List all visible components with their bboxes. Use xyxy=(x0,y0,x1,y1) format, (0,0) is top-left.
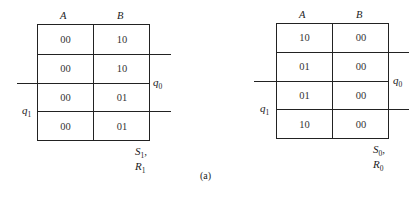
cell: 00 xyxy=(333,52,389,81)
cell: 00 xyxy=(37,54,94,83)
column-header-a: A xyxy=(299,9,305,20)
cell: 00 xyxy=(37,111,94,141)
cell: 10 xyxy=(94,24,150,54)
cell: 01 xyxy=(276,81,333,109)
row-variable-q0: q0 xyxy=(153,76,162,91)
output-label: S0, R0 xyxy=(373,143,385,173)
cell: 01 xyxy=(94,83,150,111)
cell: 00 xyxy=(333,109,389,139)
row-variable-q1: q1 xyxy=(260,102,269,117)
cell: 01 xyxy=(94,111,150,141)
cell: 10 xyxy=(276,109,333,139)
row-variable-q1: q1 xyxy=(22,104,31,119)
column-header-b: B xyxy=(117,10,123,21)
figure-caption: (a) xyxy=(200,170,211,181)
cell: 10 xyxy=(276,23,333,52)
cell: 00 xyxy=(333,23,389,52)
column-header-b: B xyxy=(356,9,362,20)
cell: 00 xyxy=(333,81,389,109)
output-label: S1, R1 xyxy=(135,145,147,175)
cell: 00 xyxy=(37,24,94,54)
row-variable-q0: q0 xyxy=(393,74,402,89)
cell: 10 xyxy=(94,54,150,83)
cell: 01 xyxy=(276,52,333,81)
column-header-a: A xyxy=(60,10,66,21)
cell: 00 xyxy=(37,83,94,111)
